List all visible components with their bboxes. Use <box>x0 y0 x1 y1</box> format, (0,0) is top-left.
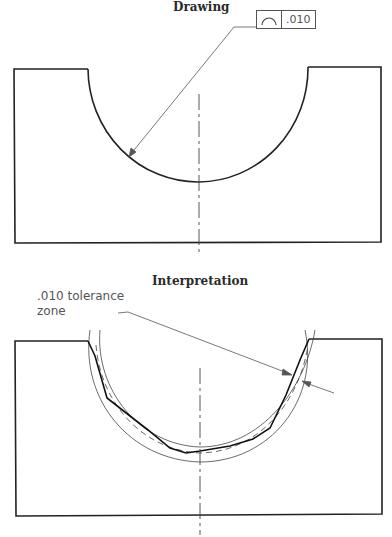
tolerance-zone-leader <box>118 312 334 393</box>
drawing-leader <box>129 27 256 157</box>
tolerance-zone-note: .010 tolerance zone <box>37 289 124 319</box>
nominal-profile <box>96 345 308 453</box>
actual-profile <box>88 339 309 453</box>
interpretation-title: Interpretation <box>152 274 248 288</box>
drawing-part-outline <box>14 67 381 243</box>
tolerance-zone <box>89 330 315 462</box>
interpretation-part-outline <box>15 339 382 516</box>
tolerance-note-line1: .010 tolerance <box>37 289 124 304</box>
drawing-canvas <box>0 0 392 537</box>
tolerance-note-line2: zone <box>37 304 124 319</box>
